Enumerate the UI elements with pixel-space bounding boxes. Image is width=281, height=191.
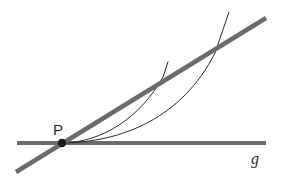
curve-outer: [62, 12, 229, 143]
point-p-marker: [58, 139, 66, 147]
curve-inner: [62, 62, 168, 143]
geometry-figure: P g: [0, 0, 281, 191]
figure-canvas: [0, 0, 281, 191]
line-g-label: g: [251, 151, 259, 167]
point-p-label: P: [53, 122, 63, 137]
secant-line: [16, 18, 266, 172]
